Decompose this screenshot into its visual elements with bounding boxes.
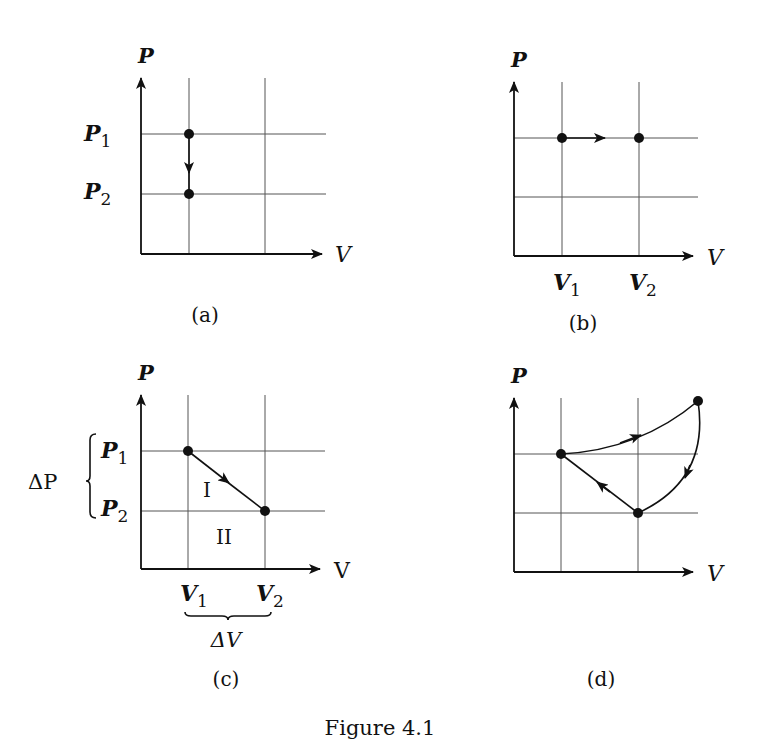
panel-b: P V V1 V2 (b) — [510, 47, 725, 335]
arrow-compression — [685, 465, 690, 478]
process-path-tail — [226, 481, 265, 511]
v1-label: V1 — [553, 269, 581, 300]
state-point-2 — [184, 189, 194, 199]
figure-4-1: P V P1 P2 (a) P V V1 V2 (b) P V — [0, 0, 761, 743]
panel-label: (c) — [213, 667, 240, 691]
y-axis-label: P — [137, 43, 155, 68]
figure-caption: Figure 4.1 — [325, 716, 436, 740]
state-point-3 — [693, 396, 703, 406]
delta-p-label: ΔP — [28, 470, 57, 494]
cycle-segment-compression — [638, 401, 700, 513]
delta-v-brace — [185, 612, 271, 620]
panel-a: P V P1 P2 (a) — [83, 43, 353, 327]
panel-label: (a) — [191, 303, 219, 327]
state-point-2 — [260, 506, 270, 516]
state-point-2 — [633, 508, 643, 518]
panel-c: P V ΔP P1 P2 V1 V2 ΔV I II (c) — [28, 360, 351, 691]
p2-label: P2 — [100, 495, 128, 526]
x-axis-label: V — [335, 242, 353, 267]
y-axis-label: P — [137, 360, 155, 385]
v1-label: V1 — [180, 580, 208, 611]
panel-d: P V (d) — [510, 363, 725, 691]
v2-label: V2 — [629, 269, 657, 300]
delta-v-label: ΔV — [210, 628, 243, 652]
x-axis-label: V — [707, 245, 725, 270]
p1-label: P1 — [100, 437, 128, 468]
p1-label: P1 — [83, 120, 111, 151]
state-point-1 — [556, 449, 566, 459]
panel-label: (b) — [569, 311, 597, 335]
state-point-1 — [183, 446, 193, 456]
state-point-2 — [634, 133, 644, 143]
x-axis-label: V — [707, 561, 725, 586]
arrow-return — [597, 482, 610, 492]
y-axis-label: P — [510, 363, 528, 388]
delta-p-brace — [86, 434, 96, 518]
region-1-label: I — [203, 478, 211, 502]
v2-label: V2 — [256, 580, 284, 611]
cycle-segment-expansion — [561, 401, 698, 454]
state-point-1 — [557, 133, 567, 143]
state-point-1 — [184, 129, 194, 139]
p2-label: P2 — [83, 178, 111, 209]
x-axis-label: V — [333, 558, 351, 583]
y-axis-label: P — [510, 47, 528, 72]
panel-label: (d) — [587, 667, 615, 691]
region-2-label: II — [216, 525, 232, 549]
